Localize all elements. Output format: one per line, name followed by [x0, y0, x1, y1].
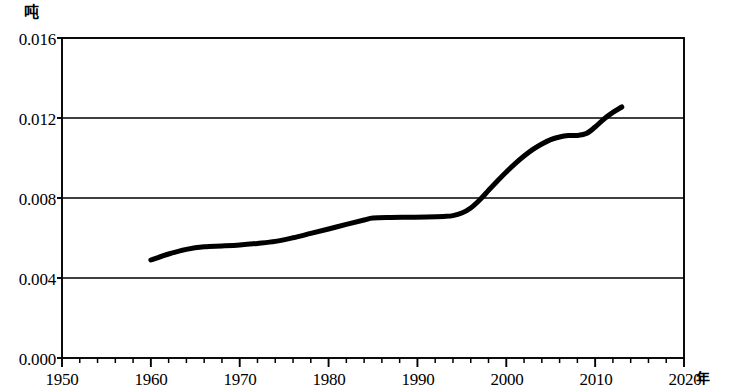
plot-area — [0, 0, 729, 392]
data-line-series-0 — [151, 107, 622, 260]
chart-container: 吨 年 0.016 0.012 0.008 0.004 0.000 1950 1… — [0, 0, 729, 392]
gridlines — [62, 118, 684, 278]
x-minor-ticks — [62, 358, 684, 367]
